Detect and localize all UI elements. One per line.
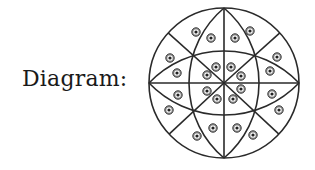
dot-center — [167, 108, 170, 111]
dot-center — [211, 126, 214, 129]
dot-center — [248, 29, 251, 32]
dot-center — [214, 65, 217, 68]
dot-center — [275, 55, 278, 58]
diagram-lines — [149, 8, 299, 158]
dot-center — [168, 56, 171, 59]
dot-center — [195, 134, 198, 137]
dot-center — [251, 133, 254, 136]
dot-center — [231, 97, 234, 100]
dot-center — [215, 97, 218, 100]
dot-center — [194, 30, 197, 33]
dot-center — [235, 126, 238, 129]
dot-center — [239, 74, 242, 77]
dot-center — [270, 92, 273, 95]
circle-diagram — [0, 0, 315, 170]
dot-center — [205, 73, 208, 76]
dot-center — [229, 65, 232, 68]
dot-center — [176, 93, 179, 96]
dot-center — [277, 108, 280, 111]
dot-center — [239, 87, 242, 90]
dot-center — [268, 69, 271, 72]
dot-center — [205, 89, 208, 92]
dot-center — [233, 36, 236, 39]
dot-center — [209, 36, 212, 39]
dot-center — [175, 71, 178, 74]
